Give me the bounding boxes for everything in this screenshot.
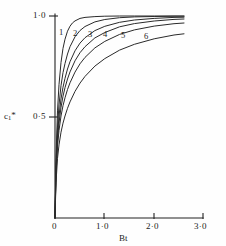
figure-container: c1* 1·0 0·5 0 1·0 2·0 3·0 Bt 1 2 3 4 5 6 — [0, 0, 226, 246]
x-axis-title: Bt — [119, 234, 128, 243]
y-tick-label-0-5: 0·5 — [33, 112, 46, 121]
curve-2 — [55, 16, 184, 218]
x-tick-label-3-0: 3·0 — [194, 222, 207, 231]
axes-group — [49, 14, 203, 219]
chart-canvas — [0, 0, 226, 246]
curve-label-5: 5 — [121, 31, 125, 40]
curve-label-3: 3 — [88, 30, 92, 39]
y-tick-label-1-0: 1·0 — [33, 11, 46, 20]
curves-group — [55, 16, 184, 218]
x-tick-label-2-0: 2·0 — [146, 222, 159, 231]
curve-label-2: 2 — [73, 29, 77, 38]
y-axis-title-star: * — [11, 110, 16, 120]
curve-label-6: 6 — [144, 32, 148, 41]
curve-label-4: 4 — [103, 30, 107, 39]
curve-label-1: 1 — [59, 28, 63, 37]
x-tick-label-1-0: 1·0 — [96, 222, 109, 231]
curve-4 — [55, 19, 184, 218]
curve-3 — [55, 17, 184, 218]
x-tick-label-0: 0 — [52, 222, 57, 231]
y-axis-title: c1* — [4, 111, 16, 122]
curve-1 — [55, 16, 184, 218]
